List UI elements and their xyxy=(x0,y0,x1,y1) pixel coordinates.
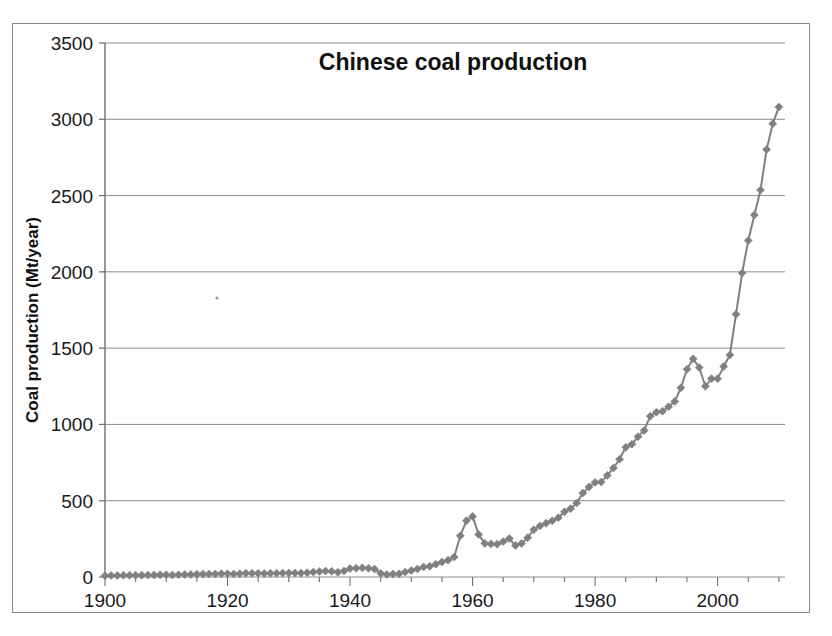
data-point-marker xyxy=(769,120,777,128)
data-point-marker xyxy=(677,384,685,392)
data-point-marker xyxy=(714,375,722,383)
data-point-marker xyxy=(720,362,728,370)
data-point-marker xyxy=(738,269,746,277)
y-tick-label-1000: 1000 xyxy=(51,414,93,435)
data-point-marker xyxy=(407,566,415,574)
data-point-marker xyxy=(744,237,752,245)
gridlines xyxy=(105,43,785,577)
x-tick-label-1920: 1920 xyxy=(206,590,248,611)
x-tick-label-1900: 1900 xyxy=(84,590,126,611)
axes xyxy=(99,43,105,577)
y-axis-title: Coal production (Mt/year) xyxy=(23,217,42,423)
x-tick-label-1940: 1940 xyxy=(329,590,371,611)
y-tick-label-2500: 2500 xyxy=(51,186,93,207)
x-tick-label-2000: 2000 xyxy=(696,590,738,611)
data-point-marker xyxy=(763,145,771,153)
data-point-marker xyxy=(726,351,734,359)
y-tick-label-500: 500 xyxy=(61,491,93,512)
y-tick-label-3500: 3500 xyxy=(51,33,93,54)
data-point-marker xyxy=(683,365,691,373)
data-point-marker xyxy=(401,568,409,576)
series-line-0 xyxy=(105,107,779,576)
x-tick-label-1960: 1960 xyxy=(451,590,493,611)
data-series-line xyxy=(105,107,779,576)
y-tick-label-0: 0 xyxy=(82,567,93,588)
y-tick-label-2000: 2000 xyxy=(51,262,93,283)
data-point-marker xyxy=(334,568,342,576)
y-tick-label-3000: 3000 xyxy=(51,109,93,130)
data-point-marker xyxy=(456,532,464,540)
data-point-marker xyxy=(750,211,758,219)
data-series-markers xyxy=(101,103,783,580)
data-point-marker xyxy=(775,103,783,111)
chart-title: Chinese coal production xyxy=(319,49,587,75)
line-chart: 0500100015002000250030003500 19001920194… xyxy=(0,0,832,636)
x-axis-ticks xyxy=(105,577,779,586)
data-point-marker xyxy=(756,186,764,194)
y-axis-tick-labels: 0500100015002000250030003500 xyxy=(51,33,93,588)
y-tick-label-1500: 1500 xyxy=(51,338,93,359)
scan-artifact-speck xyxy=(215,296,218,299)
data-point-marker xyxy=(732,310,740,318)
x-tick-label-1980: 1980 xyxy=(574,590,616,611)
figure-canvas: 0500100015002000250030003500 19001920194… xyxy=(0,0,832,636)
x-axis-tick-labels: 190019201940196019802000 xyxy=(84,590,739,611)
